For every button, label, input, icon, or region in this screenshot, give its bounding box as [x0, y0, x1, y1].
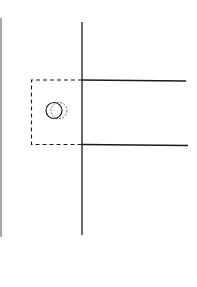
- top-horizontal-line: [82, 80, 186, 81]
- line-drawing: [0, 0, 197, 287]
- bottom-horizontal-line: [82, 145, 188, 146]
- dashed-box: [32, 80, 83, 145]
- solid-circle: [46, 103, 62, 119]
